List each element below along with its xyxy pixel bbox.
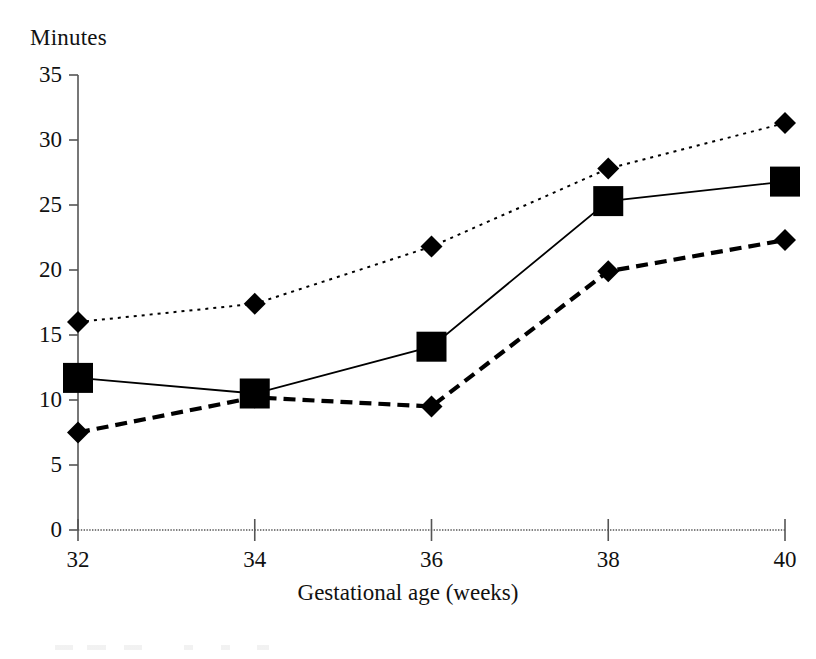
y-tick-label: 10 — [16, 388, 62, 411]
y-tick-label: 25 — [16, 193, 62, 216]
y-tick-label: 30 — [16, 128, 62, 151]
scan-artifact — [55, 645, 285, 650]
data-point-square — [417, 332, 447, 362]
y-tick-label: 35 — [16, 63, 62, 86]
x-tick-label: 40 — [755, 548, 815, 571]
data-point-square — [63, 363, 93, 393]
y-tick-label: 0 — [16, 518, 62, 541]
data-point-diamond — [244, 293, 266, 315]
x-tick-label: 34 — [225, 548, 285, 571]
data-point-square — [770, 167, 800, 197]
data-point-diamond — [774, 229, 796, 251]
y-tick-label: 20 — [16, 258, 62, 281]
data-point-square — [593, 186, 623, 216]
x-tick-label: 32 — [48, 548, 108, 571]
data-point-diamond — [597, 260, 619, 282]
data-point-diamond — [67, 422, 89, 444]
series-line-upper-series — [78, 123, 785, 322]
y-tick-label: 15 — [16, 323, 62, 346]
data-point-diamond — [67, 311, 89, 333]
x-tick-label: 38 — [578, 548, 638, 571]
data-point-diamond — [774, 112, 796, 134]
series-line-middle-series — [78, 182, 785, 394]
y-tick-label: 5 — [16, 453, 62, 476]
x-tick-label: 36 — [402, 548, 462, 571]
x-axis-title: Gestational age (weeks) — [0, 580, 816, 606]
data-point-diamond — [597, 158, 619, 180]
data-point-diamond — [421, 236, 443, 258]
chart-figure: Minutes 05101520253035 3234363840 Gestat… — [0, 0, 816, 659]
